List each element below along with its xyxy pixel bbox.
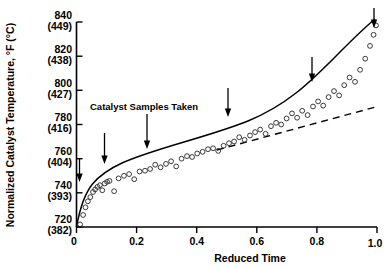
annotation-arrow (309, 57, 315, 82)
x-tick-label: 0.4 (189, 235, 204, 247)
x-tick-label: 0.8 (310, 235, 325, 247)
annotation-label-catalyst-samples: Catalyst Samples Taken (90, 101, 198, 112)
annotation-arrow (144, 114, 150, 149)
annotation-arrows (76, 8, 377, 182)
data-point (78, 222, 83, 227)
x-tick-label: 0 (71, 235, 77, 247)
data-point (258, 127, 263, 132)
data-point (274, 120, 279, 125)
data-points-group (78, 23, 379, 227)
data-point (316, 99, 321, 104)
data-point (368, 44, 373, 49)
annotation-arrow (371, 8, 377, 28)
data-point (353, 79, 358, 84)
data-point (185, 154, 190, 159)
data-point (206, 147, 211, 152)
data-point (248, 133, 253, 138)
scatter-plot: 840 (449) 820 (438) 800 (427) 780 (416) … (0, 0, 391, 268)
y-axis-title: Normalized Catalyst Temperature, °F (°C) (4, 23, 16, 227)
annotation-arrow (101, 133, 107, 164)
data-point (300, 108, 305, 113)
x-axis-ticks (77, 227, 378, 233)
data-point (100, 188, 105, 193)
data-point (81, 213, 86, 218)
data-point (112, 189, 117, 194)
data-point (290, 111, 295, 116)
data-point (211, 146, 216, 151)
data-point (232, 139, 237, 144)
y-tick-label-c: (427) (47, 88, 72, 100)
data-point (321, 103, 326, 108)
data-point (195, 151, 200, 156)
data-point (242, 137, 247, 142)
y-tick-label-c: (382) (47, 224, 72, 236)
x-axis-title: Reduced Time (214, 252, 286, 264)
data-point (295, 115, 300, 120)
data-point (132, 177, 137, 182)
data-point (269, 124, 274, 129)
data-point (200, 149, 205, 154)
data-point (221, 143, 226, 148)
y-axis-tick-labels: 840 (449) 820 (438) 800 (427) 780 (416) … (47, 9, 72, 236)
data-point (122, 173, 127, 178)
data-point (158, 165, 163, 170)
data-point (363, 56, 368, 61)
data-point (263, 131, 268, 136)
x-tick-label: 0.2 (129, 235, 144, 247)
data-point (190, 155, 195, 160)
data-point (311, 104, 316, 109)
data-point (179, 156, 184, 161)
fit-curve (77, 19, 376, 227)
y-tick-label-c: (449) (47, 20, 72, 32)
x-tick-label: 0.6 (249, 235, 264, 247)
data-point (342, 83, 347, 88)
data-point (227, 141, 232, 146)
data-point (337, 93, 342, 98)
extrapolation-line (217, 107, 377, 150)
chart-container: 840 (449) 820 (438) 800 (427) 780 (416) … (0, 0, 391, 268)
data-point (358, 67, 363, 72)
annotation-arrow (225, 88, 231, 117)
data-point (284, 116, 289, 121)
data-point (371, 32, 376, 37)
x-axis-tick-labels: 0 0.2 0.4 0.6 0.8 1.0 (71, 235, 382, 249)
data-point (116, 176, 121, 181)
data-point (143, 168, 148, 173)
data-point (305, 113, 310, 118)
data-point (88, 195, 93, 200)
data-point (174, 164, 179, 169)
data-point (253, 130, 258, 135)
y-axis-ticks (77, 22, 83, 227)
data-point (148, 167, 153, 172)
data-point (332, 89, 337, 94)
y-tick-label-c: (393) (47, 190, 72, 202)
data-point (164, 162, 169, 167)
y-tick-label-c: (404) (47, 156, 72, 168)
x-tick-label: 1.0 (368, 237, 383, 249)
data-point (137, 169, 142, 174)
data-point (237, 135, 242, 140)
y-tick-label-c: (416) (47, 122, 72, 134)
data-point (326, 95, 331, 100)
y-tick-label-c: (438) (47, 54, 72, 66)
data-point (127, 172, 132, 177)
data-point (153, 162, 158, 167)
data-point (279, 122, 284, 127)
data-point (83, 205, 88, 210)
data-point (169, 159, 174, 164)
data-point (347, 75, 352, 80)
